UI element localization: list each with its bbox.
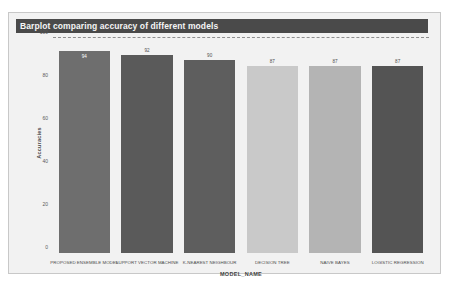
bar-group: 87DECISION TREE — [241, 38, 304, 253]
chart-title-bar: Barplot comparing accuracy of different … — [16, 19, 428, 33]
page-title: Barplot comparing accuracy of different … — [20, 21, 218, 31]
y-tick-label: 100 — [40, 29, 48, 35]
y-tick-label: 0 — [45, 244, 48, 250]
chart-figure: Barplot comparing accuracy of different … — [8, 12, 441, 274]
bar-series: 94PROPOSED ENSEMBLE MODEL92SUPPORT VECTO… — [53, 38, 429, 253]
bar-group: 87LOGISTIC REGRESSION — [366, 38, 429, 253]
bar-group: 90K-NEAREST NEIGHBOUR — [178, 38, 241, 253]
x-tick-label: LOGISTIC REGRESSION — [359, 260, 437, 267]
plot-area: 020406080100 94PROPOSED ENSEMBLE MODEL92… — [53, 38, 429, 253]
x-axis-label: MODEL_NAME — [53, 271, 429, 277]
bar[interactable]: 94 — [59, 51, 110, 253]
bar-value-label: 87 — [247, 59, 298, 64]
bar-group: 87NAIVE BAYES — [304, 38, 367, 253]
bar[interactable]: 87 — [247, 66, 298, 253]
bar[interactable]: 87 — [309, 66, 360, 253]
bar[interactable]: 87 — [372, 66, 423, 253]
bar-value-label: 90 — [184, 53, 235, 58]
y-tick-label: 40 — [42, 158, 48, 164]
bar[interactable]: 92 — [121, 55, 172, 253]
bar-group: 92SUPPORT VECTOR MACHINE — [116, 38, 179, 253]
y-tick-label: 20 — [42, 201, 48, 207]
y-tick-label: 60 — [42, 115, 48, 121]
bar-value-label: 87 — [309, 59, 360, 64]
bar-value-label: 92 — [121, 48, 172, 53]
bar-value-label: 94 — [59, 54, 110, 59]
bar-value-label: 87 — [372, 59, 423, 64]
y-axis-label: Accuracies — [36, 127, 42, 158]
bar[interactable]: 90 — [184, 60, 235, 254]
y-tick-label: 80 — [42, 72, 48, 78]
bar-group: 94PROPOSED ENSEMBLE MODEL — [53, 38, 116, 253]
